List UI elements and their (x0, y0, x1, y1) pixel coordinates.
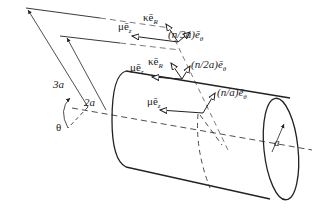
label-2a: 2a (84, 96, 96, 108)
label-n-3a-etheta: (n/3a)ēθ (168, 28, 204, 43)
label-theta: θ (56, 121, 61, 133)
diagram-canvas: μēz κēR (n/3a)ēθ μēz κēR (n/2a)ēθ μēz (n… (0, 0, 316, 209)
vector-pair-a (160, 93, 215, 113)
ring-3a-line (26, 8, 100, 18)
label-mu-ez-mid: μēz (130, 61, 144, 76)
label-radius-a: a (274, 136, 280, 148)
cylinder-diagram: μēz κēR (n/3a)ēθ μēz κēR (n/2a)ēθ μēz (n… (0, 0, 316, 209)
label-mu-ez-low: μēz (147, 95, 161, 110)
label-3a: 3a (52, 78, 65, 90)
label-n-a-etheta: (n/a)ēθ (217, 86, 247, 101)
label-kappa-er-top: κēR (143, 11, 158, 26)
label-kappa-er-mid: κēR (148, 55, 163, 70)
label-n-2a-etheta: (n/2a)ēθ (191, 58, 227, 73)
